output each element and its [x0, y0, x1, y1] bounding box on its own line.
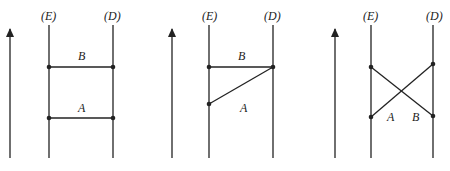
label-e: (E)	[41, 9, 56, 23]
label-d: (D)	[264, 9, 281, 23]
event-dot	[47, 116, 52, 121]
event-dot	[271, 65, 276, 70]
label-event-b: B	[412, 110, 420, 124]
label-event-b: B	[78, 49, 86, 63]
event-dot	[111, 116, 116, 121]
label-event-a: A	[239, 101, 248, 115]
label-e: (E)	[363, 9, 378, 23]
event-dot	[207, 102, 212, 107]
event-dot	[111, 65, 116, 70]
label-event-a: A	[386, 110, 395, 124]
label-e: (E)	[202, 9, 217, 23]
spacetime-diagrams: (E) (D) B A (E) (D) B A (E) (D) A B	[0, 0, 450, 171]
event-dot	[207, 65, 212, 70]
signal-a	[209, 67, 273, 104]
event-dot	[369, 65, 374, 70]
event-dot	[369, 115, 374, 120]
diagram-1	[10, 25, 115, 158]
label-event-a: A	[77, 101, 86, 115]
event-dot	[431, 62, 436, 67]
diagram-3	[335, 25, 435, 158]
event-dot	[47, 65, 52, 70]
label-d: (D)	[104, 9, 121, 23]
diagram-2	[172, 25, 275, 158]
label-event-b: B	[238, 49, 246, 63]
label-d: (D)	[426, 9, 443, 23]
event-dot	[431, 114, 436, 119]
